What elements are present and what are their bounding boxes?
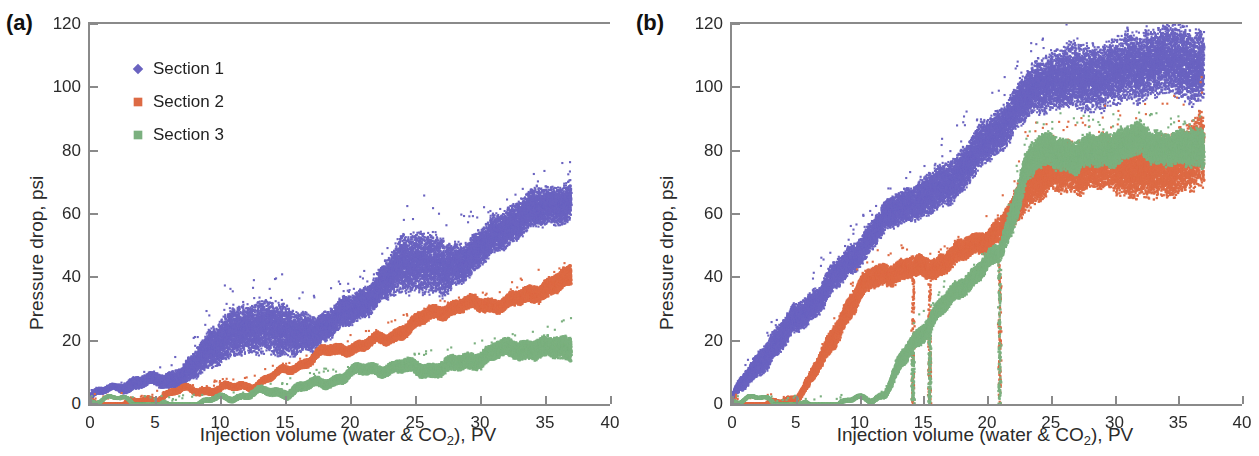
y-tick-label: 100 (53, 77, 81, 97)
panel-b-label: (b) (636, 10, 664, 36)
x-tick-mark (285, 396, 287, 404)
x-tick-label: 0 (85, 413, 94, 433)
y-tick-mark (90, 213, 98, 215)
panel-b-scatter-layer (732, 24, 1242, 404)
x-tick-label: 5 (791, 413, 800, 433)
y-tick-mark (732, 340, 740, 342)
x-tick-label: 15 (914, 413, 933, 433)
panel-a-x-axis-title-subscript: 2 (447, 433, 454, 448)
x-tick-mark (860, 396, 862, 404)
legend-item-section-2[interactable]: Section 2 (132, 85, 224, 118)
y-tick-mark (732, 150, 740, 152)
legend-item-section-3[interactable]: Section 3 (132, 118, 224, 151)
y-tick-mark (90, 150, 98, 152)
x-tick-label: 10 (211, 413, 230, 433)
x-tick-mark (1051, 396, 1053, 404)
panel-b: (b) Pressure drop, psi Injection volume … (629, 0, 1259, 456)
x-tick-label: 35 (1169, 413, 1188, 433)
x-tick-mark (220, 396, 222, 404)
panel-b-x-axis-title-subscript: 2 (1084, 433, 1091, 448)
y-tick-mark (90, 86, 98, 88)
diamond-marker-icon (133, 63, 144, 74)
panel-a-label: (a) (6, 10, 33, 36)
x-tick-mark (545, 396, 547, 404)
x-tick-label: 35 (536, 413, 555, 433)
y-tick-mark (90, 340, 98, 342)
legend-item-label: Section 2 (153, 92, 224, 112)
x-tick-label: 30 (471, 413, 490, 433)
square-marker-icon (134, 130, 143, 139)
y-tick-label: 60 (62, 204, 81, 224)
x-tick-label: 40 (1233, 413, 1252, 433)
legend-item-label: Section 3 (153, 125, 224, 145)
y-tick-label: 80 (62, 141, 81, 161)
x-tick-mark (1242, 396, 1244, 404)
x-tick-mark (1178, 396, 1180, 404)
x-tick-mark (987, 396, 989, 404)
y-tick-mark (732, 276, 740, 278)
panel-b-y-axis-title: Pressure drop, psi (656, 176, 678, 330)
x-tick-mark (350, 396, 352, 404)
panel-b-plot-area: 020406080100120 0510152025303540 (730, 22, 1242, 406)
y-tick-label: 40 (704, 267, 723, 287)
y-tick-label: 40 (62, 267, 81, 287)
x-tick-mark (796, 396, 798, 404)
x-tick-mark (90, 396, 92, 404)
y-tick-label: 100 (695, 77, 723, 97)
y-tick-mark (90, 23, 98, 25)
x-tick-label: 20 (978, 413, 997, 433)
x-tick-mark (732, 396, 734, 404)
y-tick-label: 80 (704, 141, 723, 161)
x-tick-mark (480, 396, 482, 404)
y-tick-mark (732, 213, 740, 215)
x-tick-label: 25 (1041, 413, 1060, 433)
x-tick-mark (923, 396, 925, 404)
y-tick-label: 120 (695, 14, 723, 34)
x-tick-label: 15 (276, 413, 295, 433)
x-tick-label: 20 (341, 413, 360, 433)
x-tick-label: 30 (1105, 413, 1124, 433)
y-tick-mark (732, 86, 740, 88)
x-tick-mark (415, 396, 417, 404)
y-tick-label: 20 (62, 331, 81, 351)
x-tick-mark (1115, 396, 1117, 404)
figure-container: (a) Pressure drop, psi Injection volume … (0, 0, 1259, 456)
square-marker-icon (134, 97, 143, 106)
legend-item-section-1[interactable]: Section 1 (132, 52, 224, 85)
panel-b-scatter-canvas (732, 24, 1242, 404)
x-tick-label: 25 (406, 413, 425, 433)
y-tick-label: 60 (704, 204, 723, 224)
x-tick-label: 40 (601, 413, 620, 433)
panel-a-y-axis-title: Pressure drop, psi (26, 176, 48, 330)
y-tick-label: 0 (72, 394, 81, 414)
y-tick-mark (90, 276, 98, 278)
y-tick-label: 120 (53, 14, 81, 34)
legend-item-label: Section 1 (153, 59, 224, 79)
x-tick-label: 5 (150, 413, 159, 433)
panel-a: (a) Pressure drop, psi Injection volume … (0, 0, 630, 456)
y-tick-mark (732, 23, 740, 25)
y-tick-label: 20 (704, 331, 723, 351)
x-tick-label: 10 (850, 413, 869, 433)
x-tick-mark (610, 396, 612, 404)
y-tick-label: 0 (714, 394, 723, 414)
x-tick-label: 0 (727, 413, 736, 433)
x-tick-mark (155, 396, 157, 404)
panel-a-legend: Section 1Section 2Section 3 (132, 52, 224, 151)
